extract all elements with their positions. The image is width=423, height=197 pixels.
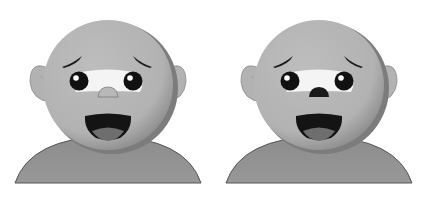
face-illustration-light-nose xyxy=(0,0,212,197)
face-panel-right xyxy=(211,0,423,197)
right-eye xyxy=(124,72,143,91)
face-illustration-dark-nose xyxy=(211,0,423,197)
right-eye xyxy=(335,72,354,91)
face-panel-left xyxy=(0,0,212,197)
left-eye xyxy=(70,72,89,91)
left-eye xyxy=(281,72,300,91)
